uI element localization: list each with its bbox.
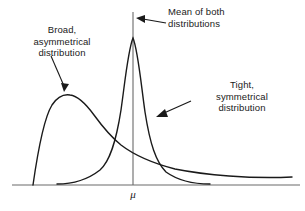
mean-leader-arrow [136,15,166,23]
distribution-comparison-figure: Broad, asymmetrical distribution Mean of… [0,0,305,211]
broad-leader-arrow [51,56,69,92]
mean-of-both-distributions-label: Mean of both distributions [168,6,288,29]
tight-distribution-label: Tight, symmetrical distribution [186,79,298,114]
broad-distribution-label: Broad, asymmetrical distribution [12,24,112,59]
mu-axis-tick-label: μ [120,188,146,200]
